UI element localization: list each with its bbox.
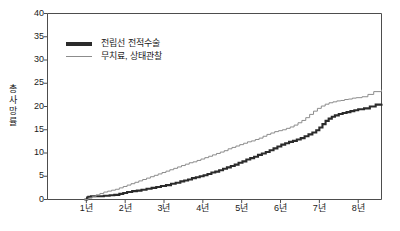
legend-label-watchful-waiting: 무치료, 상태관찰 — [101, 51, 162, 62]
data-series-group — [84, 90, 381, 200]
legend-line-swatch-surgery — [66, 42, 92, 46]
x-axis-tick-label: 6년 — [264, 203, 298, 214]
x-axis-tick-labels: 1년2년3년4년5년6년7년8년 — [0, 203, 400, 219]
x-axis-tick-label: 7년 — [302, 203, 336, 214]
legend-item-watchful-waiting: 무치료, 상태관찰 — [66, 50, 196, 63]
x-axis-tick-label: 8년 — [341, 203, 375, 214]
x-axis-tick-label: 4년 — [186, 203, 220, 214]
mortality-chart: 총사망률 0510152025303540 1년2년3년4년5년6년7년8년 전… — [0, 0, 400, 231]
plot-area — [0, 0, 400, 231]
series-line-watchful-waiting — [84, 90, 381, 200]
x-axis-tick-label: 1년 — [69, 203, 103, 214]
x-axis-tick-label: 2년 — [108, 203, 142, 214]
y-axis-ticks — [44, 14, 48, 200]
legend-label-surgery: 전립선 전적수술 — [101, 38, 160, 49]
legend-line-swatch-watchful-waiting — [66, 56, 92, 57]
legend-item-surgery: 전립선 전적수술 — [66, 37, 196, 50]
x-axis-tick-label: 5년 — [225, 203, 259, 214]
x-axis-tick-label: 3년 — [147, 203, 181, 214]
chart-legend: 전립선 전적수술 무치료, 상태관찰 — [66, 37, 196, 63]
